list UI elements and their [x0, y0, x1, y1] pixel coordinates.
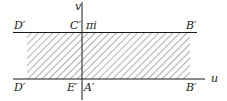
- bottom-left-label: D′: [13, 81, 26, 94]
- strip-diagram: v u D′ C′ πi B′ D′ E′ A′ B′: [0, 0, 227, 101]
- hatched-strip-region: [27, 33, 190, 79]
- bottom-axis-right-label: A′: [83, 81, 95, 94]
- v-axis-label: v: [75, 0, 82, 13]
- pi-i-label: πi: [85, 19, 97, 32]
- u-axis-label: u: [211, 72, 218, 85]
- bottom-right-label: B′: [185, 81, 197, 94]
- top-axis-label: C′: [70, 19, 81, 32]
- top-right-label: B′: [185, 19, 197, 32]
- top-left-label: D′: [13, 19, 26, 32]
- bottom-axis-left-label: E′: [66, 81, 78, 94]
